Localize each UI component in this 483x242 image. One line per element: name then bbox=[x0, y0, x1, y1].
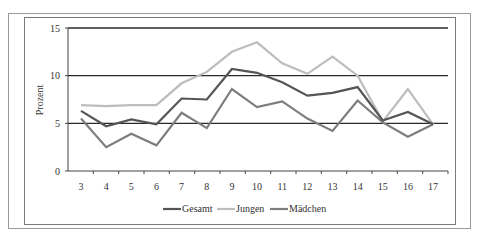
x-tick-label: 9 bbox=[229, 181, 234, 192]
x-tick-label: 10 bbox=[252, 181, 262, 192]
x-tick-label: 13 bbox=[328, 181, 338, 192]
y-tick-label: 15 bbox=[50, 23, 60, 34]
x-tick-label: 11 bbox=[277, 181, 287, 192]
x-tick-label: 5 bbox=[129, 181, 134, 192]
axes: 05101534567891011121314151617 bbox=[50, 23, 448, 193]
x-tick-label: 15 bbox=[378, 181, 388, 192]
y-tick-label: 5 bbox=[55, 118, 60, 129]
x-tick-label: 12 bbox=[302, 181, 312, 192]
y-axis-label: Prozent bbox=[34, 85, 45, 116]
legend-label: Mädchen bbox=[289, 203, 326, 214]
line-chart: 05101534567891011121314151617 Prozent Ge… bbox=[0, 0, 483, 242]
x-tick-label: 14 bbox=[353, 181, 363, 192]
x-tick-label: 17 bbox=[428, 181, 438, 192]
legend-label: Gesamt bbox=[182, 203, 213, 214]
x-tick-label: 16 bbox=[403, 181, 413, 192]
y-tick-label: 0 bbox=[55, 166, 60, 177]
x-tick-label: 3 bbox=[79, 181, 84, 192]
x-tick-label: 4 bbox=[104, 181, 109, 192]
x-tick-label: 8 bbox=[204, 181, 209, 192]
y-tick-label: 10 bbox=[50, 70, 60, 81]
data-series bbox=[81, 42, 433, 147]
legend: GesamtJungenMädchen bbox=[163, 203, 326, 214]
legend-label: Jungen bbox=[236, 203, 264, 214]
series-line-gesamt bbox=[81, 69, 433, 126]
x-tick-label: 7 bbox=[179, 181, 184, 192]
x-tick-label: 6 bbox=[154, 181, 159, 192]
series-line-jungen bbox=[81, 42, 433, 124]
